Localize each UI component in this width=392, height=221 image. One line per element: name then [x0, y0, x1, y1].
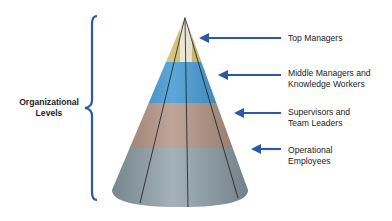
level-label-middle-managers: Middle Managers and Knowledge Workers	[288, 68, 371, 89]
arrow-top-managers	[199, 33, 281, 43]
organizational-levels-label: Organizational Levels	[14, 97, 84, 119]
arrow-middle-managers	[218, 70, 281, 80]
org-levels-diagram: Organizational Levels Top Managers Middl…	[0, 0, 392, 221]
level-label-supervisors: Supervisors and Team Leaders	[288, 107, 350, 128]
level-text: Employees	[288, 156, 332, 167]
level-text: Knowledge Workers	[288, 79, 371, 90]
side-label-line2: Levels	[14, 108, 84, 119]
level-label-operational: Operational Employees	[288, 145, 332, 166]
brace-icon	[85, 16, 97, 200]
level-text: Operational	[288, 145, 332, 156]
level-text: Supervisors and	[288, 107, 350, 118]
level-text: Team Leaders	[288, 118, 350, 129]
level-label-top-managers: Top Managers	[288, 33, 342, 44]
side-label-line1: Organizational	[14, 97, 84, 108]
level-text: Top Managers	[288, 33, 342, 44]
arrow-supervisors	[234, 108, 281, 118]
arrow-operational	[251, 144, 281, 154]
level-text: Middle Managers and	[288, 68, 371, 79]
